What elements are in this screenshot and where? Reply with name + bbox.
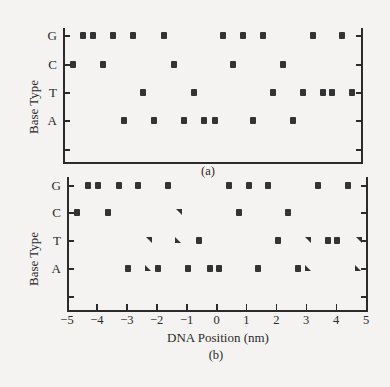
panel-a-marker-t: [349, 89, 355, 96]
panel-b-x-tick-label: 0: [205, 314, 229, 327]
panel-b-x-tick-label: 3: [294, 314, 318, 327]
panel-b-marker-a: [305, 265, 311, 271]
panel-b-marker-a: [295, 265, 301, 272]
panel-a-right-axis: [361, 28, 363, 164]
panel-b-x-axis-title: DNA Position (nm): [118, 330, 318, 346]
panel-b-x-tick-label: 2: [264, 314, 288, 327]
panel-b-marker-g: [315, 182, 321, 189]
panel-b-x-tick: [96, 304, 98, 310]
panel-a-marker-g: [161, 32, 167, 39]
panel-a-marker-g: [260, 32, 266, 39]
panel-b-x-tick: [336, 304, 338, 310]
panel-a-marker-g: [80, 32, 86, 39]
panel-a-marker-c: [280, 61, 286, 68]
panel-b-marker-t: [325, 237, 331, 244]
panel-b-right-axis: [366, 177, 368, 312]
panel-a-marker-g: [90, 32, 96, 39]
panel-b-y-label-g: G: [47, 179, 61, 192]
panel-b-marker-t: [196, 237, 202, 244]
panel-b-marker-a: [145, 265, 151, 271]
panel-b-marker-a: [155, 265, 161, 272]
panel-b-x-tick: [306, 304, 308, 310]
panel-b-x-tick: [276, 304, 278, 310]
panel-a-y-axis-title: Base Type: [26, 54, 42, 134]
panel-a-y-label-a: A: [43, 114, 57, 127]
panel-a-y-tick-right: [356, 92, 361, 94]
panel-b-x-tick-label: −1: [175, 314, 199, 327]
panel-a-left-axis: [63, 28, 65, 164]
panel-a-marker-g: [130, 32, 136, 39]
panel-b-marker-a: [207, 265, 213, 272]
panel-a-marker-t: [300, 89, 306, 96]
panel-b-y-tick-left: [69, 240, 74, 242]
panel-b-y-tick-left: [69, 185, 74, 187]
panel-a-marker-t: [191, 89, 197, 96]
panel-b-y-label-c: C: [47, 206, 61, 219]
panel-a-marker-a: [290, 117, 296, 124]
panel-b-marker-g: [135, 182, 141, 189]
panel-a-y-label-g: G: [43, 29, 57, 42]
panel-a-marker-t: [320, 89, 326, 96]
panel-b-marker-c: [105, 209, 111, 216]
panel-b-caption: (b): [201, 348, 231, 363]
panel-b-marker-g: [345, 182, 351, 189]
panel-a-marker-a: [201, 117, 207, 124]
panel-b-y-tick-right: [361, 296, 366, 298]
panel-b-y-tick-left: [69, 212, 74, 214]
panel-b-marker-g: [165, 182, 171, 189]
panel-a-y-label-t: T: [43, 86, 57, 99]
panel-b-x-tick-label: 5: [354, 314, 378, 327]
panel-b-x-tick-label: −4: [85, 314, 109, 327]
panel-b-marker-t: [146, 237, 152, 243]
panel-a-caption: (a): [193, 164, 223, 179]
panel-a-marker-a: [250, 117, 256, 124]
panel-a-marker-t: [140, 89, 146, 96]
panel-b-marker-t: [175, 237, 181, 243]
panel-b-x-tick-label: −2: [145, 314, 169, 327]
panel-b-marker-g: [226, 182, 232, 189]
panel-b-left-axis: [67, 177, 69, 312]
panel-b-marker-c: [74, 209, 80, 216]
panel-a-marker-a: [212, 117, 218, 124]
panel-a-y-tick-right: [356, 149, 361, 151]
panel-b-y-tick-right: [361, 185, 366, 187]
panel-b-marker-a: [216, 265, 222, 272]
panel-b-y-label-t: T: [47, 234, 61, 247]
panel-b-y-tick-right: [361, 212, 366, 214]
panel-b-marker-g: [95, 182, 101, 189]
panel-a-marker-a: [121, 117, 127, 124]
panel-a-bottom-axis: [63, 162, 363, 164]
panel-b-bottom-axis: [67, 310, 368, 312]
panel-b-marker-g: [246, 182, 252, 189]
panel-b-y-tick-right: [361, 268, 366, 270]
panel-b-x-tick: [246, 304, 248, 310]
panel-a-y-tick-left: [65, 35, 70, 37]
panel-b-marker-a: [355, 265, 361, 271]
panel-b-marker-c: [176, 209, 182, 215]
panel-b-marker-a: [185, 265, 191, 272]
panel-b-marker-t: [334, 237, 340, 244]
panel-a-marker-a: [151, 117, 157, 124]
panel-b-y-label-a: A: [47, 262, 61, 275]
panel-a-marker-g: [339, 32, 345, 39]
panel-b-x-tick-label: −3: [115, 314, 139, 327]
panel-a-marker-g: [310, 32, 316, 39]
panel-a-marker-g: [110, 32, 116, 39]
panel-a-y-tick-right: [356, 35, 361, 37]
panel-a-marker-c: [230, 61, 236, 68]
panel-a-marker-g: [220, 32, 226, 39]
panel-b-marker-c: [236, 209, 242, 216]
panel-a-marker-c: [171, 61, 177, 68]
panel-a-y-tick-left: [65, 120, 70, 122]
panel-a-marker-t: [329, 89, 335, 96]
panel-b-x-tick: [126, 304, 128, 310]
panel-b-x-tick-label: −5: [55, 314, 79, 327]
panel-a-y-tick-right: [356, 64, 361, 66]
panel-b-marker-c: [285, 209, 291, 216]
panel-b-marker-a: [125, 265, 131, 272]
panel-b-marker-t: [275, 237, 281, 244]
panel-b-y-tick-left: [69, 296, 74, 298]
panel-a-y-label-c: C: [43, 58, 57, 71]
panel-a-marker-a: [181, 117, 187, 124]
panel-b-x-tick-label: 4: [324, 314, 348, 327]
